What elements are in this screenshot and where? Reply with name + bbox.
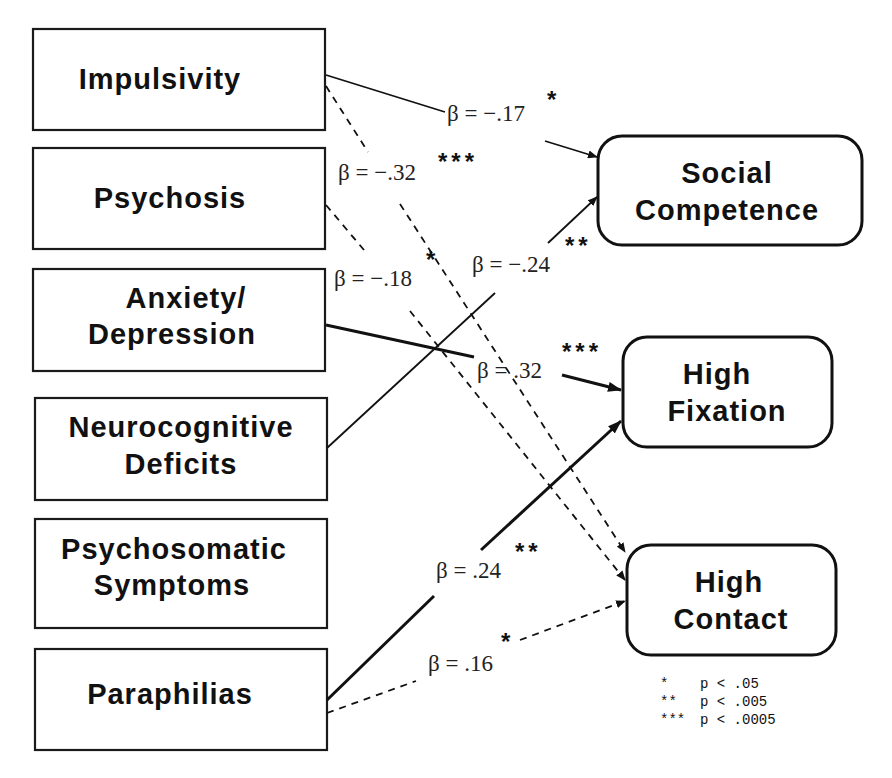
- significance-stars: *: [501, 628, 514, 655]
- beta-label: β = −.18: [334, 266, 412, 291]
- significance-stars: **: [515, 538, 542, 565]
- predictor-label: Depression: [88, 318, 256, 350]
- beta-label: β = .32: [477, 358, 542, 383]
- significance-stars: **: [565, 232, 592, 259]
- legend-stars: ***: [660, 712, 685, 728]
- predictor-label: Neurocognitive: [68, 411, 293, 443]
- predictor-label: Anxiety/: [126, 282, 247, 314]
- beta-label: β = −.32: [338, 160, 416, 185]
- significance-legend: * p < .05 ** p < .005 *** p < .0005: [660, 676, 776, 728]
- predictor-box-psychosis: Psychosis: [33, 148, 325, 249]
- predictor-box-anxiety-depression: Anxiety/ Depression: [33, 269, 325, 371]
- outcome-label: Competence: [635, 194, 819, 226]
- outcome-label: Fixation: [667, 395, 786, 427]
- path-impulsivity-social-competence: β = −.17 *: [326, 75, 597, 157]
- outcome-label: Social: [681, 157, 772, 189]
- predictor-box-psychosomatic-symptoms: Psychosomatic Symptoms: [35, 519, 327, 628]
- predictor-label: Psychosomatic: [61, 533, 287, 565]
- legend-text: p < .0005: [700, 712, 776, 728]
- predictor-box-neurocognitive-deficits: Neurocognitive Deficits: [35, 398, 327, 500]
- significance-stars: *: [547, 86, 560, 113]
- path-impulsivity-high-contact: β = −.32 ***: [326, 86, 625, 552]
- beta-label: β = −.17: [447, 101, 525, 126]
- legend-text: p < .05: [700, 676, 759, 692]
- path-neurocognitive-social-competence: β = −.24 **: [327, 197, 597, 448]
- predictor-label: Symptoms: [94, 569, 250, 601]
- beta-label: β = −.24: [472, 252, 550, 277]
- outcome-label: High: [683, 358, 751, 390]
- beta-label: β = .24: [436, 558, 501, 583]
- path-diagram: Impulsivity Psychosis Anxiety/ Depressio…: [0, 0, 892, 778]
- outcome-box-high-fixation: High Fixation: [623, 337, 832, 447]
- outcome-box-social-competence: Social Competence: [598, 136, 862, 245]
- significance-stars: ***: [438, 148, 478, 175]
- significance-stars: *: [426, 246, 439, 273]
- predictor-label: Deficits: [125, 448, 238, 480]
- beta-label: β = .16: [428, 651, 493, 676]
- predictor-label: Paraphilias: [87, 678, 253, 710]
- predictor-label: Impulsivity: [79, 63, 242, 95]
- outcome-label: High: [695, 566, 763, 598]
- predictor-box-paraphilias: Paraphilias: [35, 649, 327, 750]
- significance-stars: ***: [562, 338, 602, 365]
- outcome-box-high-contact: High Contact: [627, 545, 836, 655]
- outcome-label: Contact: [674, 603, 789, 635]
- legend-stars: *: [660, 676, 668, 692]
- legend-text: p < .005: [700, 694, 767, 710]
- predictor-label: Psychosis: [94, 182, 246, 214]
- legend-stars: **: [660, 694, 677, 710]
- predictor-box-impulsivity: Impulsivity: [33, 29, 325, 130]
- path-anxiety-high-fixation: β = .32 ***: [326, 325, 621, 390]
